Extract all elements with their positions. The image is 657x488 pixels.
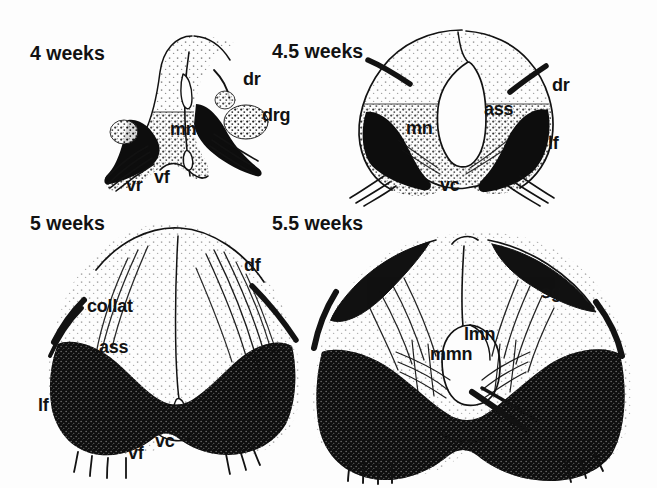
- label-vc: vc: [440, 176, 460, 194]
- panel-title-5-5-weeks: 5.5 weeks: [272, 214, 363, 234]
- label-mmn: mmn: [430, 345, 472, 363]
- label-dr: dr: [552, 76, 570, 94]
- label-vr: vr: [126, 176, 143, 194]
- label-dr: dr: [243, 70, 261, 88]
- label-mn: mn: [170, 120, 197, 138]
- panel-4-5-weeks-artwork: [350, 24, 570, 206]
- label-ass: ass: [99, 338, 128, 356]
- label-ass: ass: [484, 100, 513, 118]
- label-lf: lf: [38, 396, 49, 414]
- figure-artwork: [0, 0, 657, 488]
- label-lmn: lmn: [464, 325, 495, 343]
- label-drg: drg: [262, 106, 290, 124]
- label-vf: vf: [128, 444, 144, 462]
- panel-title-4-5-weeks: 4.5 weeks: [272, 42, 363, 62]
- panel-title-5-weeks: 5 weeks: [30, 214, 105, 234]
- panel-5-weeks-artwork: [40, 220, 310, 478]
- label-lf: lf: [548, 134, 559, 152]
- spinal-cord-development-figure: 4 weeks dr drg mn vr vf 4.5 weeks dr ass…: [0, 0, 657, 488]
- label-sg: sg: [541, 283, 562, 301]
- label-mn: mn: [406, 119, 433, 137]
- label-df: df: [244, 256, 261, 274]
- label-vc: vc: [155, 432, 175, 450]
- label-collat: collat: [87, 297, 133, 315]
- panel-title-4-weeks: 4 weeks: [30, 44, 105, 64]
- label-vf: vf: [154, 168, 170, 186]
